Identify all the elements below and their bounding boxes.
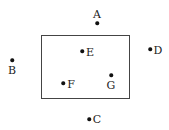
point-b-label: B	[8, 65, 16, 76]
point-c-label: C	[93, 114, 101, 125]
point-d-label: D	[154, 45, 163, 56]
point-e-dot	[80, 49, 84, 53]
point-g-dot	[109, 73, 113, 77]
point-a-label: A	[93, 9, 101, 20]
point-c-dot	[87, 117, 91, 121]
point-a-dot	[95, 21, 99, 25]
point-f-dot	[61, 81, 65, 85]
point-g-label: G	[107, 80, 116, 91]
point-d-dot	[148, 47, 152, 51]
point-f-label: F	[67, 79, 75, 90]
point-b-dot	[10, 58, 14, 62]
point-e-label: E	[86, 47, 94, 58]
